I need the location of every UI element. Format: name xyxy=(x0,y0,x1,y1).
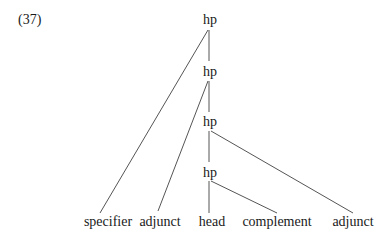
node-hp-1: hp xyxy=(203,12,217,28)
edge-hp3-adjunct-right xyxy=(211,131,353,213)
leaf-complement: complement xyxy=(242,214,311,230)
node-hp-4: hp xyxy=(203,165,217,181)
leaf-adjunct-right: adjunct xyxy=(332,214,373,230)
edge-hp4-complement xyxy=(211,181,277,213)
node-hp-3: hp xyxy=(203,114,217,130)
tree-edges xyxy=(0,0,389,241)
leaf-head: head xyxy=(199,214,225,230)
node-hp-2: hp xyxy=(203,64,217,80)
edge-hp2-adjunct-left xyxy=(158,81,208,211)
leaf-adjunct-left: adjunct xyxy=(139,214,180,230)
leaf-specifier: specifier xyxy=(84,214,132,230)
edge-hp1-specifier xyxy=(100,30,208,213)
